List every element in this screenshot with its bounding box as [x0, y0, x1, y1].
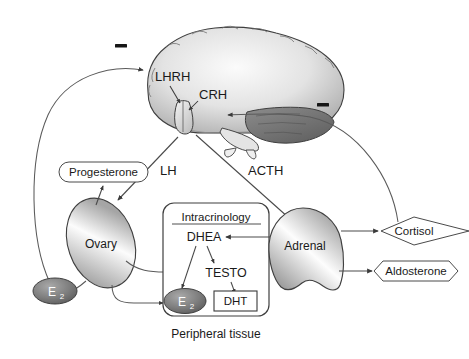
negative-feedback-sign-right	[317, 103, 329, 107]
progesterone-node: Progesterone	[59, 162, 148, 182]
progesterone-label: Progesterone	[69, 166, 138, 178]
e2-tissue-subscript: 2	[190, 302, 195, 311]
intracrinology-title: Intracrinology	[181, 211, 250, 223]
adrenal-label: Adrenal	[284, 239, 325, 253]
endocrine-axis-diagram: LHRH CRH LH ACTH Ovary Progesterone E 2 …	[0, 0, 469, 359]
crh-label: CRH	[199, 87, 227, 102]
e2-ovary-node: E 2	[33, 278, 77, 304]
e2-tissue-node: E 2	[164, 289, 206, 314]
acth-label: ACTH	[248, 163, 283, 178]
cortisol-label: Cortisol	[395, 225, 434, 237]
negative-feedback-sign-left	[115, 44, 127, 48]
edge-ovary-e2-tissue	[112, 285, 163, 303]
dht-label: DHT	[224, 295, 248, 307]
cortisol-node: Cortisol	[381, 216, 469, 246]
e2-ovary-label: E	[48, 285, 56, 299]
pituitary-gland	[175, 101, 193, 134]
aldosterone-node: Aldosterone	[374, 261, 458, 281]
aldosterone-label: Aldosterone	[385, 265, 446, 277]
dht-node: DHT	[214, 291, 257, 311]
figure-caption: Peripheral tissue	[171, 327, 261, 341]
lhrh-label: LHRH	[155, 69, 190, 84]
testo-label: TESTO	[205, 266, 247, 280]
lh-label: LH	[160, 163, 177, 178]
e2-ovary-subscript: 2	[60, 292, 65, 301]
cerebellum	[245, 107, 334, 143]
dhea-label: DHEA	[187, 230, 222, 244]
e2-tissue-label: E	[178, 295, 186, 309]
ovary-label: Ovary	[85, 237, 117, 251]
adrenal-gland: Adrenal	[269, 208, 344, 290]
